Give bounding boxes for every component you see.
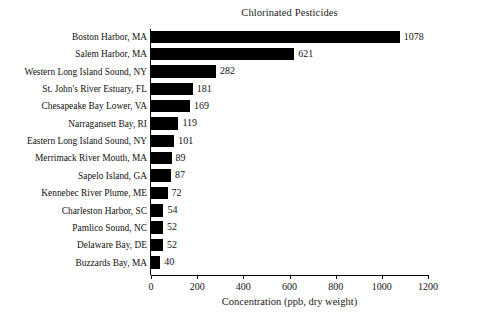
bar-row: 621 xyxy=(151,46,428,63)
bar xyxy=(151,135,174,148)
bar-value-label: 72 xyxy=(172,186,182,200)
category-label: Eastern Long Island Sound, NY xyxy=(27,134,147,148)
category-label: Sapelo Island, GA xyxy=(78,169,147,183)
bar-row: 101 xyxy=(151,133,428,150)
bar xyxy=(151,256,160,269)
bar-value-label: 54 xyxy=(167,203,177,217)
bar-value-label: 87 xyxy=(175,168,185,182)
bar xyxy=(151,187,168,200)
x-tick-label: 0 xyxy=(149,280,154,293)
category-label: Narragansett Bay, RI xyxy=(68,117,147,131)
x-tick xyxy=(290,275,291,279)
bar-row: 52 xyxy=(151,237,428,254)
bar xyxy=(151,221,163,234)
category-label: Salem Harbor, MA xyxy=(75,47,147,61)
bar-row: 40 xyxy=(151,255,428,272)
category-label: Chesapeake Bay Lower, VA xyxy=(42,99,148,113)
x-tick-label: 400 xyxy=(236,280,251,293)
bar-row: 52 xyxy=(151,220,428,237)
bar xyxy=(151,169,171,182)
category-label: Charleston Harbor, SC xyxy=(62,204,147,218)
bar-row: 54 xyxy=(151,203,428,220)
x-tick xyxy=(428,275,429,279)
bar xyxy=(151,100,190,113)
bar-row: 119 xyxy=(151,116,428,133)
x-axis-title: Concentration (ppb, dry weight) xyxy=(151,296,428,307)
plot-area: 107862128218116911910189877254525240 xyxy=(151,29,428,275)
bar xyxy=(151,117,178,130)
bar-value-label: 52 xyxy=(167,220,177,234)
category-label: Delaware Bay, DE xyxy=(77,238,147,252)
bar-row: 282 xyxy=(151,64,428,81)
bar-row: 89 xyxy=(151,150,428,167)
bar-value-label: 40 xyxy=(164,255,174,269)
category-label: Western Long Island Sound, NY xyxy=(25,65,147,79)
chart-title: Chlorinated Pesticides xyxy=(151,7,428,18)
bar-value-label: 119 xyxy=(182,116,197,130)
bar-row: 87 xyxy=(151,168,428,185)
bar xyxy=(151,239,163,252)
bar-row: 169 xyxy=(151,98,428,115)
bar xyxy=(151,152,172,165)
x-tick-label: 200 xyxy=(190,280,205,293)
bar-value-label: 282 xyxy=(220,64,235,78)
x-tick xyxy=(382,275,383,279)
category-label: St. John's River Estuary, FL xyxy=(42,82,147,96)
bar-row: 181 xyxy=(151,81,428,98)
category-label: Boston Harbor, MA xyxy=(72,30,147,44)
bar-value-label: 1078 xyxy=(404,30,424,44)
bar-value-label: 621 xyxy=(298,47,313,61)
bar xyxy=(151,65,216,78)
category-label: Pamlico Sound, NC xyxy=(72,221,147,235)
bar-row: 1078 xyxy=(151,29,428,46)
bar-value-label: 52 xyxy=(167,238,177,252)
x-tick-label: 1200 xyxy=(418,280,438,293)
bar-value-label: 169 xyxy=(194,99,209,113)
bar xyxy=(151,83,193,96)
category-label: Buzzards Bay, MA xyxy=(75,256,147,270)
x-tick xyxy=(243,275,244,279)
category-label: Merrimack River Mouth, MA xyxy=(35,151,147,165)
bar xyxy=(151,204,163,217)
bar-value-label: 181 xyxy=(197,82,212,96)
bar-chart: Chlorinated Pesticides 10786212821811691… xyxy=(0,0,478,321)
bar xyxy=(151,31,400,44)
category-label: Kennebec River Plume, ME xyxy=(41,186,147,200)
bar-value-label: 101 xyxy=(178,134,193,148)
x-tick xyxy=(336,275,337,279)
x-tick xyxy=(197,275,198,279)
x-tick-label: 1000 xyxy=(372,280,392,293)
bar xyxy=(151,48,294,61)
x-tick-label: 600 xyxy=(282,280,297,293)
x-tick-label: 800 xyxy=(328,280,343,293)
x-tick xyxy=(151,275,152,279)
bar-row: 72 xyxy=(151,185,428,202)
bar-value-label: 89 xyxy=(176,151,186,165)
